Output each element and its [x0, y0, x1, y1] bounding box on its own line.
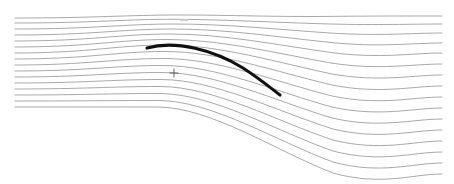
streamline	[15, 73, 442, 124]
flow-diagram	[0, 0, 454, 184]
streamline-group	[15, 15, 442, 179]
streamline	[15, 40, 442, 67]
streamline	[15, 66, 442, 112]
streamline	[15, 29, 442, 45]
streamline	[15, 24, 442, 34]
streamline	[15, 87, 442, 146]
faint-smudge-mark	[180, 19, 188, 21]
streamline	[15, 19, 442, 24]
streamline	[15, 15, 442, 18]
streamline-canvas	[0, 0, 454, 184]
streamline	[15, 107, 442, 179]
center-of-pressure-cross	[170, 69, 179, 78]
